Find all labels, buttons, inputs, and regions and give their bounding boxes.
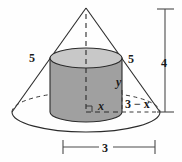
base-dimension-group [63,140,155,154]
geometry-figure: 5 5 y x 3 − x 4 3 [0,0,182,162]
label-cone-height: 4 [161,56,167,70]
label-slant-right: 5 [128,52,134,66]
figure-canvas: 5 5 y x 3 − x 4 3 [0,0,182,162]
label-cylinder-height-half: y [114,75,122,89]
label-radius-outer-remainder: 3 − x [125,97,150,111]
label-slant-left: 5 [29,51,35,65]
label-cone-base-diameter: 3 [102,141,108,155]
label-radius-inner: x [97,99,104,113]
